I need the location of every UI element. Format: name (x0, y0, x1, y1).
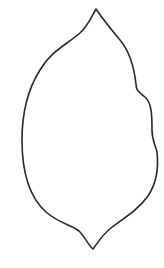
leaf-outline-drawing (0, 0, 164, 268)
leaf-outline (22, 9, 158, 249)
